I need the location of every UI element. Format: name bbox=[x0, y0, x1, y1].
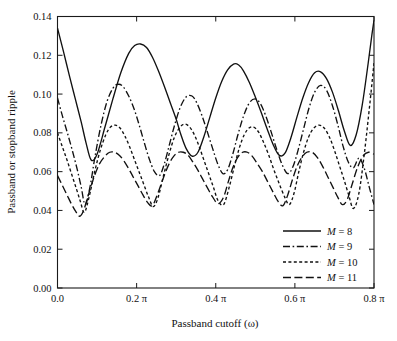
legend-label-0: M = 8 bbox=[326, 226, 352, 237]
x-tick-label: 0.2 π bbox=[126, 293, 148, 304]
y-tick-label: 0.12 bbox=[33, 50, 51, 61]
y-tick-label: 0.06 bbox=[33, 166, 51, 177]
y-tick-label: 0.00 bbox=[33, 283, 51, 294]
y-tick-label: 0.14 bbox=[33, 11, 52, 22]
legend-label-2: M = 10 bbox=[326, 257, 357, 268]
y-axis-tick-labels: 0.000.020.040.060.080.100.120.14 bbox=[33, 11, 52, 294]
legend-label-1: M = 9 bbox=[326, 241, 352, 252]
x-tick-label: 0.0 bbox=[51, 293, 64, 304]
legend: M = 8M = 9M = 10M = 11 bbox=[283, 226, 357, 283]
y-tick-label: 0.08 bbox=[33, 127, 51, 138]
x-tick-label: 0.4 π bbox=[205, 293, 227, 304]
y-axis-title: Passband or stopband ripple bbox=[5, 90, 17, 214]
x-tick-label: 0.8 π bbox=[363, 293, 385, 304]
x-axis-title: Passband cutoff (ω) bbox=[171, 317, 258, 330]
chart-page: 0.00.2 π0.4 π0.6 π0.8 π 0.000.020.040.06… bbox=[0, 0, 397, 341]
y-tick-label: 0.10 bbox=[33, 89, 51, 100]
y-tick-label: 0.04 bbox=[33, 205, 52, 216]
curve-series-2 bbox=[58, 63, 375, 212]
data-curves bbox=[58, 20, 375, 216]
legend-label-3: M = 11 bbox=[326, 272, 357, 283]
x-tick-label: 0.6 π bbox=[284, 293, 306, 304]
curve-series-3 bbox=[58, 152, 375, 217]
ripple-chart: 0.00.2 π0.4 π0.6 π0.8 π 0.000.020.040.06… bbox=[0, 0, 397, 341]
x-axis-tick-labels: 0.00.2 π0.4 π0.6 π0.8 π bbox=[51, 293, 385, 304]
y-tick-label: 0.02 bbox=[33, 244, 51, 255]
curve-series-1 bbox=[58, 84, 375, 204]
curve-series-0 bbox=[58, 20, 375, 160]
